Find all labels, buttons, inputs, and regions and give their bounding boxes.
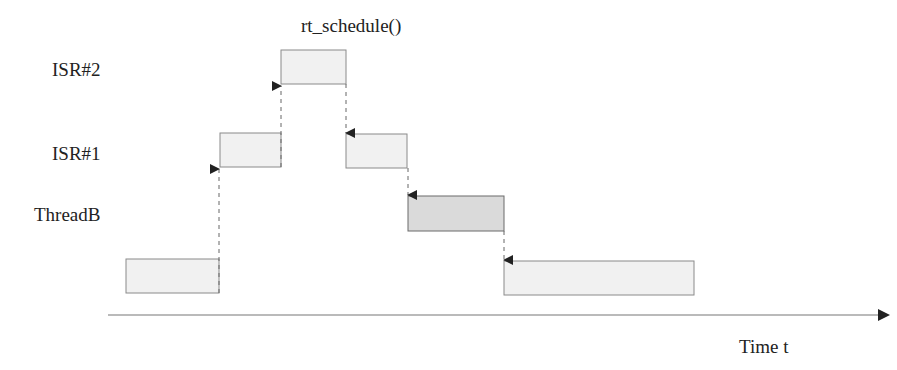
block-isr2 (281, 50, 346, 84)
label-time-axis: Time t (739, 336, 789, 357)
timing-diagram: ISR#2 ISR#1 ThreadB rt_schedule() Time t (0, 0, 897, 370)
label-isr2: ISR#2 (52, 59, 101, 80)
label-rt-schedule: rt_schedule() (301, 15, 401, 37)
block-isr1-1 (220, 133, 281, 167)
time-axis-arrowhead-icon (878, 309, 890, 321)
label-isr1: ISR#1 (52, 143, 101, 164)
block-threadb (408, 196, 504, 231)
block-base-2 (504, 261, 694, 295)
label-threadb: ThreadB (34, 204, 100, 225)
block-isr1-2 (346, 134, 407, 168)
block-base-1 (126, 259, 219, 293)
